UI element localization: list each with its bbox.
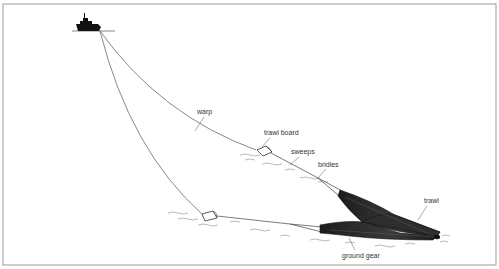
- label-warp: warp: [197, 108, 212, 116]
- seabed-lines: [168, 154, 450, 247]
- trawl-diagram: [0, 0, 499, 269]
- label-trawl: trawl: [424, 197, 439, 205]
- trawl-net: [320, 190, 440, 240]
- ship-icon: [72, 13, 115, 31]
- label-sweeps: sweeps: [291, 148, 315, 156]
- bridle-upper-b: [318, 178, 338, 195]
- label-ground-gear: ground gear: [342, 252, 380, 260]
- trawl-board-upper-icon: [257, 146, 272, 156]
- warp-line-upper: [100, 31, 256, 150]
- sweep-upper: [271, 153, 318, 178]
- warp-line-lower: [100, 31, 203, 215]
- label-trawl-board: trawl board: [264, 129, 299, 137]
- trawl-board-lower-icon: [202, 211, 217, 221]
- sweep-lower: [217, 216, 290, 224]
- label-bridles: bridles: [318, 161, 339, 169]
